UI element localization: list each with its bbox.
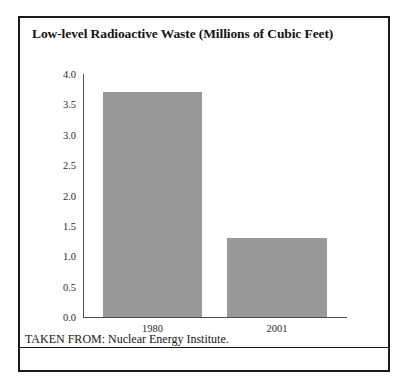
x-axis-line xyxy=(83,317,347,318)
plot-area: 4.03.53.02.52.01.51.00.50.0 19802001 xyxy=(83,74,347,317)
y-axis-tick-label: 1.5 xyxy=(63,220,76,231)
x-axis-tick-label: 2001 xyxy=(267,323,288,334)
y-axis-tick-label: 0.0 xyxy=(63,312,76,323)
y-axis-tick-label: 0.5 xyxy=(63,281,76,292)
source-divider xyxy=(20,347,388,348)
y-axis-tick-label: 2.0 xyxy=(63,190,76,201)
bar xyxy=(103,92,202,317)
source-note: TAKEN FROM: Nuclear Energy Institute. xyxy=(25,332,229,347)
y-axis-tick-label: 1.0 xyxy=(63,251,76,262)
y-axis-tick-label: 4.0 xyxy=(63,69,76,80)
bar xyxy=(227,238,327,317)
chart-title: Low-level Radioactive Waste (Millions of… xyxy=(32,26,382,42)
y-axis-line xyxy=(83,74,84,317)
figure-frame: Low-level Radioactive Waste (Millions of… xyxy=(18,16,390,372)
y-axis-tick-label: 3.0 xyxy=(63,129,76,140)
y-axis-tick-label: 3.5 xyxy=(63,99,76,110)
y-axis-tick-label: 2.5 xyxy=(63,160,76,171)
